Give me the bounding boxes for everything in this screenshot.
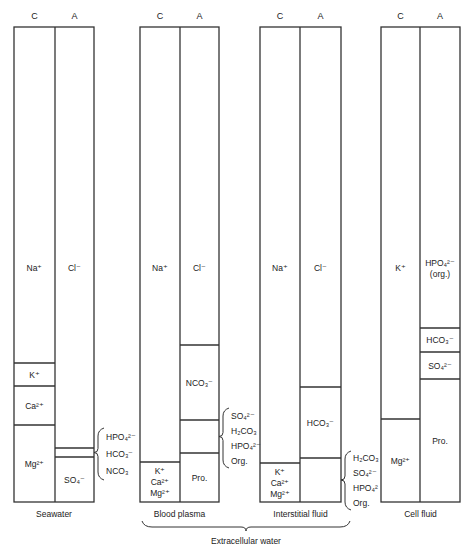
anion-label: Cl⁻: [193, 263, 206, 273]
anion-label: Cl⁻: [68, 263, 81, 273]
minor-ion-label: SO₄²⁻: [231, 411, 255, 421]
minor-ion-label: NCO₃: [106, 466, 128, 476]
cation-header: C: [31, 11, 38, 21]
cation-label: Na⁺: [272, 263, 288, 273]
anion-label: NCO₃⁻: [186, 378, 213, 388]
bracket-icon: [94, 428, 104, 480]
cation-header: C: [277, 11, 284, 21]
cation-label: Mg²⁺: [270, 489, 290, 499]
column-blood-plasma: CANa⁺K⁺Ca²⁺Mg²⁺Cl⁻NCO₃⁻Pro.SO₄²⁻H₂CO₃HPO…: [140, 11, 261, 519]
cation-header: C: [397, 11, 404, 21]
cation-label: Ca²⁺: [25, 401, 44, 411]
column-seawater: CANa⁺K⁺Ca²⁺Mg²⁺Cl⁻SO₄⁻HPO₄²⁻HCO₃⁻NCO₃Sea…: [14, 11, 136, 519]
group-caption: Extracellular water: [211, 536, 281, 546]
electrolyte-composition-diagram: CANa⁺K⁺Ca²⁺Mg²⁺Cl⁻SO₄⁻HPO₄²⁻HCO₃⁻NCO₃Sea…: [0, 0, 475, 559]
cation-label: Ca²⁺: [271, 478, 290, 488]
column-caption: Cell fluid: [404, 509, 437, 519]
anion-header: A: [437, 11, 443, 21]
extracellular-brace-icon: [142, 521, 350, 531]
cation-label: K⁺: [155, 466, 166, 476]
anion-label: HCO₃⁻: [426, 335, 453, 345]
column-caption: Blood plasma: [154, 509, 206, 519]
bracket-icon: [219, 408, 229, 468]
minor-ion-label: HPO₄²⁻: [106, 432, 136, 442]
anion-header: A: [196, 11, 202, 21]
cation-label: Mg²⁺: [391, 456, 411, 466]
cation-label: Ca²⁺: [151, 477, 170, 487]
column-caption: Seawater: [36, 509, 72, 519]
anion-label: Pro.: [192, 473, 208, 483]
cation-label: K⁺: [395, 263, 406, 273]
minor-ion-label: H₂CO₃: [231, 426, 257, 436]
anion-label: HCO₃⁻: [307, 418, 334, 428]
minor-ion-label: HPO₄²: [353, 483, 378, 493]
anion-header: A: [317, 11, 323, 21]
anion-label: (org.): [430, 269, 450, 279]
cation-label: K⁺: [29, 370, 40, 380]
column-cell-fluid: CAK⁺Mg²⁺HPO₄²⁻(org.)HCO₃⁻SO₄²⁻Pro.Cell f…: [381, 11, 460, 519]
minor-ion-label: SO₄²⁻: [353, 468, 377, 478]
minor-ion-label: Org.: [231, 456, 248, 466]
anion-header: A: [71, 11, 77, 21]
minor-ion-label: HCO₃⁻: [106, 449, 133, 459]
anion-label: HPO₄²⁻: [425, 258, 455, 268]
column-interstitial-fluid: CANa⁺K⁺Ca²⁺Mg²⁺Cl⁻HCO₃⁻H₂CO₃SO₄²⁻HPO₄²Or…: [260, 11, 379, 519]
minor-ion-label: Org.: [353, 498, 370, 508]
column-caption: Interstitial fluid: [273, 509, 328, 519]
cation-label: Mg²⁺: [150, 488, 170, 498]
anion-label: Cl⁻: [314, 263, 327, 273]
cation-header: C: [157, 11, 164, 21]
anion-label: Pro.: [432, 436, 448, 446]
minor-ion-label: H₂CO₃: [353, 453, 379, 463]
anion-label: SO₄⁻: [64, 475, 85, 485]
bracket-icon: [341, 451, 351, 510]
cation-label: Mg²⁺: [25, 459, 45, 469]
cation-label: Na⁺: [27, 263, 43, 273]
minor-ion-label: HPO₄²⁻: [231, 441, 261, 451]
cation-label: K⁺: [275, 467, 286, 477]
anion-label: SO₄²⁻: [428, 361, 452, 371]
cation-label: Na⁺: [152, 263, 168, 273]
